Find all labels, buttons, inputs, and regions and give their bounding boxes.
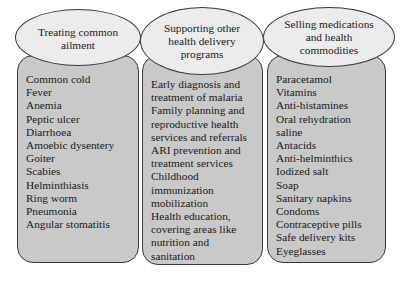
list-item: Sanitary napkins — [276, 192, 385, 205]
list-item: Childhood — [151, 170, 262, 183]
column-header-text: Treating common ailment — [33, 26, 123, 52]
list-item: Antacids — [276, 139, 385, 152]
list-item: Vitamins — [276, 86, 385, 99]
item-list: Paracetamol Vitamins Anti-histamines Ora… — [276, 73, 385, 258]
list-item: Condoms — [276, 205, 385, 218]
list-item: treatment services — [151, 157, 262, 170]
list-item: saline — [276, 126, 385, 139]
column-header-ellipse-supporting-health-programs: Supporting other health delivery program… — [140, 7, 264, 75]
column-header-text: Supporting other health delivery program… — [152, 22, 252, 61]
list-item: Early diagnosis and — [151, 78, 262, 91]
column-box-supporting-health-programs: Early diagnosis and treatment of malaria… — [142, 55, 263, 265]
column-header-ellipse-treating-common-ailment: Treating common ailment — [15, 9, 141, 66]
column-box-treating-common-ailment: Common cold Fever Anemia Peptic ulcer Di… — [17, 55, 139, 263]
list-item: treatment of malaria — [151, 91, 262, 104]
column-header-text: Selling medications and health commoditi… — [279, 18, 379, 57]
list-item: ARI prevention and — [151, 144, 262, 157]
list-item: Anti-histamines — [276, 99, 385, 112]
list-item: reproductive health — [151, 118, 262, 131]
list-item: Pneumonia — [26, 205, 138, 218]
list-item: Health education, — [151, 210, 262, 223]
list-item: Paracetamol — [276, 73, 385, 86]
list-item: Amoebic dysentery — [26, 139, 138, 152]
list-item: Scabies — [26, 165, 138, 178]
list-item: Goiter — [26, 152, 138, 165]
list-item: Contraceptive pills — [276, 218, 385, 231]
column-header-ellipse-selling-medications: Selling medications and health commoditi… — [263, 7, 395, 67]
list-item: mobilization — [151, 197, 262, 210]
list-item: Angular stomatitis — [26, 218, 138, 231]
list-item: services and referrals — [151, 131, 262, 144]
list-item: Fever — [26, 86, 138, 99]
list-item: sanitation — [151, 250, 262, 263]
list-item: immunization — [151, 184, 262, 197]
list-item: Oral rehydration — [276, 113, 385, 126]
list-item: Helminthiasis — [26, 179, 138, 192]
list-item: Ring worm — [26, 192, 138, 205]
list-item: Iodized salt — [276, 165, 385, 178]
list-item: Diarrhoea — [26, 126, 138, 139]
item-list: Early diagnosis and treatment of malaria… — [151, 78, 262, 263]
list-item: nutrition and — [151, 236, 262, 249]
list-item: Soap — [276, 179, 385, 192]
item-list: Common cold Fever Anemia Peptic ulcer Di… — [26, 73, 138, 231]
list-item: Peptic ulcer — [26, 113, 138, 126]
list-item: covering areas like — [151, 223, 262, 236]
list-item: Anemia — [26, 99, 138, 112]
list-item: Common cold — [26, 73, 138, 86]
list-item: Eyeglasses — [276, 245, 385, 258]
list-item: Anti-helminthics — [276, 152, 385, 165]
list-item: Safe delivery kits — [276, 231, 385, 244]
list-item: Family planning and — [151, 104, 262, 117]
column-box-selling-medications: Paracetamol Vitamins Anti-histamines Ora… — [267, 55, 386, 263]
